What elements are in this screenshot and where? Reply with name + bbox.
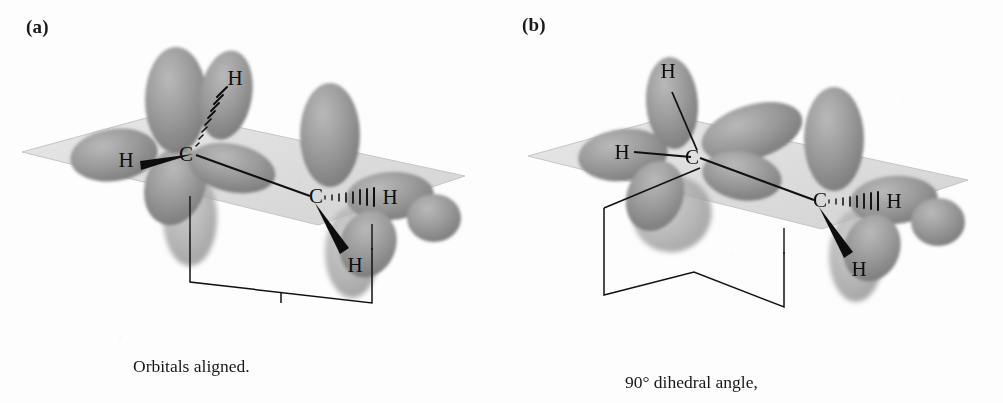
caption-b-line-1: 90° dihedral angle,	[625, 371, 787, 393]
caption-a: Orbitals aligned. Good overlap forms a π…	[133, 311, 274, 403]
sp2-lobe-right-far-b	[911, 198, 965, 246]
panel-label-b: (b)	[522, 14, 546, 36]
caption-a-line-1: Orbitals aligned.	[133, 355, 274, 377]
atom-label-hydrogen-left-wedge-a: H	[118, 148, 133, 172]
atom-label-carbon-left-a: C	[179, 142, 193, 166]
p-orbital-lobe-upper-right-b	[804, 87, 864, 191]
atom-label-hydrogen-right-hash-b: H	[886, 189, 901, 213]
atom-label-hydrogen-left-upper-b: H	[660, 59, 675, 83]
atom-label-carbon-right-b: C	[813, 188, 827, 212]
atom-label-hydrogen-left-hash-a: H	[227, 66, 242, 90]
atom-label-hydrogen-right-wedge-b: H	[851, 257, 866, 281]
panel-label-a: (a)	[26, 16, 49, 38]
atom-label-hydrogen-left-side-b: H	[614, 140, 629, 164]
sp2-lobe-right-far-a	[407, 194, 461, 242]
figure-canvas: C C H H H H	[0, 0, 1003, 403]
atom-label-hydrogen-right-wedge-a: H	[347, 253, 362, 277]
panel-a-structure: C C H H H H	[22, 46, 465, 303]
atom-label-carbon-left-b: C	[685, 145, 699, 169]
p-orbital-lobe-upper-left-a	[145, 47, 207, 153]
panel-b-structure: C C H H H H	[528, 55, 968, 307]
p-orbital-lobe-upper-right-a	[300, 83, 360, 187]
atom-label-hydrogen-right-hash-a: H	[382, 185, 397, 209]
atom-label-carbon-right-a: C	[309, 184, 323, 208]
caption-b: 90° dihedral angle, no overlap, no π bon…	[625, 327, 787, 403]
